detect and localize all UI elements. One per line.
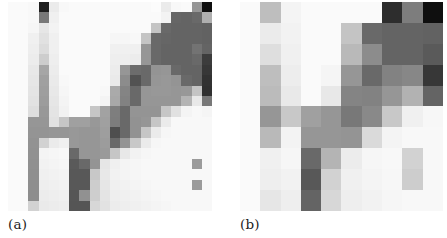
heatmap-cell bbox=[202, 23, 212, 33]
heatmap-cell bbox=[120, 159, 130, 169]
heatmap-cell bbox=[8, 106, 18, 116]
heatmap-cell bbox=[151, 169, 161, 179]
heatmap-cell bbox=[181, 180, 191, 190]
heatmap-cell bbox=[151, 44, 161, 54]
heatmap-cell bbox=[362, 127, 382, 148]
heatmap-cell bbox=[18, 117, 28, 127]
heatmap-cell bbox=[39, 127, 49, 137]
heatmap-cell bbox=[382, 65, 402, 86]
heatmap-cell bbox=[341, 169, 361, 190]
heatmap-cell bbox=[202, 159, 212, 169]
heatmap-cell bbox=[321, 190, 341, 211]
heatmap-cell bbox=[260, 86, 280, 107]
heatmap-cell bbox=[192, 65, 202, 75]
heatmap-cell bbox=[49, 148, 59, 158]
heatmap-cell bbox=[69, 12, 79, 22]
heatmap-cell bbox=[141, 54, 151, 64]
heatmap-cell bbox=[49, 2, 59, 12]
heatmap-cell bbox=[120, 201, 130, 211]
heatmap-cell bbox=[120, 33, 130, 43]
heatmap-cell bbox=[130, 138, 140, 148]
heatmap-cell bbox=[171, 2, 181, 12]
heatmap-cell bbox=[161, 86, 171, 96]
heatmap-cell bbox=[171, 96, 181, 106]
heatmap-cell bbox=[49, 117, 59, 127]
heatmap-cell bbox=[100, 54, 110, 64]
heatmap-cell bbox=[301, 106, 321, 127]
heatmap-cell bbox=[321, 65, 341, 86]
heatmap-cell bbox=[151, 180, 161, 190]
two-panel-heatmap-figure: (a) (b) bbox=[0, 0, 447, 238]
heatmap-cell bbox=[8, 33, 18, 43]
heatmap-cell bbox=[18, 148, 28, 158]
heatmap-cell bbox=[120, 148, 130, 158]
heatmap-cell bbox=[69, 23, 79, 33]
heatmap-cell bbox=[18, 54, 28, 64]
heatmap-cell bbox=[181, 169, 191, 179]
heatmap-cell bbox=[39, 2, 49, 12]
heatmap-cell bbox=[120, 117, 130, 127]
heatmap-cell bbox=[18, 65, 28, 75]
heatmap-cell bbox=[161, 75, 171, 85]
heatmap-cell bbox=[260, 127, 280, 148]
heatmap-cell bbox=[39, 54, 49, 64]
heatmap-cell bbox=[141, 44, 151, 54]
heatmap-cell bbox=[90, 96, 100, 106]
heatmap-cell bbox=[110, 106, 120, 116]
heatmap-cell bbox=[192, 127, 202, 137]
heatmap-cell bbox=[100, 138, 110, 148]
heatmap-cell bbox=[59, 190, 69, 200]
heatmap-cell bbox=[90, 117, 100, 127]
heatmap-cell bbox=[321, 23, 341, 44]
heatmap-cell bbox=[171, 169, 181, 179]
heatmap-cell bbox=[260, 44, 280, 65]
heatmap-cell bbox=[141, 106, 151, 116]
heatmap-cell bbox=[423, 169, 443, 190]
heatmap-cell bbox=[100, 12, 110, 22]
heatmap-cell bbox=[100, 117, 110, 127]
heatmap-cell bbox=[39, 86, 49, 96]
heatmap-cell bbox=[18, 159, 28, 169]
heatmap-cell bbox=[301, 86, 321, 107]
heatmap-cell bbox=[8, 65, 18, 75]
heatmap-cell bbox=[100, 106, 110, 116]
heatmap-cell bbox=[59, 33, 69, 43]
heatmap-cell bbox=[90, 201, 100, 211]
heatmap-cell bbox=[240, 86, 260, 107]
heatmap-cell bbox=[79, 12, 89, 22]
heatmap-cell bbox=[171, 190, 181, 200]
heatmap-cell bbox=[321, 148, 341, 169]
heatmap-cell bbox=[100, 44, 110, 54]
heatmap-cell bbox=[382, 86, 402, 107]
heatmap-cell bbox=[402, 190, 422, 211]
heatmap-cell bbox=[59, 96, 69, 106]
heatmap-cell bbox=[120, 65, 130, 75]
heatmap-cell bbox=[192, 44, 202, 54]
heatmap-cell bbox=[321, 44, 341, 65]
heatmap-cell bbox=[69, 190, 79, 200]
heatmap-cell bbox=[141, 33, 151, 43]
heatmap-cell bbox=[161, 169, 171, 179]
heatmap-cell bbox=[69, 117, 79, 127]
heatmap-cell bbox=[161, 54, 171, 64]
heatmap-cell bbox=[100, 75, 110, 85]
heatmap-cell bbox=[301, 44, 321, 65]
heatmap-cell bbox=[100, 180, 110, 190]
heatmap-cell bbox=[130, 148, 140, 158]
heatmap-cell bbox=[240, 169, 260, 190]
heatmap-cell bbox=[192, 2, 202, 12]
heatmap-cell bbox=[192, 106, 202, 116]
heatmap-cell bbox=[130, 169, 140, 179]
heatmap-cell bbox=[79, 127, 89, 137]
heatmap-cell bbox=[110, 86, 120, 96]
heatmap-cell bbox=[59, 127, 69, 137]
heatmap-cell bbox=[130, 106, 140, 116]
heatmap-cell bbox=[260, 106, 280, 127]
heatmap-grid-b bbox=[240, 2, 443, 211]
heatmap-cell bbox=[59, 169, 69, 179]
heatmap-cell bbox=[240, 44, 260, 65]
heatmap-cell bbox=[130, 54, 140, 64]
heatmap-cell bbox=[69, 159, 79, 169]
heatmap-cell bbox=[28, 54, 38, 64]
heatmap-cell bbox=[49, 106, 59, 116]
